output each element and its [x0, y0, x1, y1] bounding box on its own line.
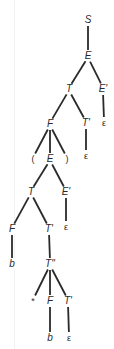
tree-node-n3: E' [98, 84, 109, 94]
tree-edge [14, 197, 28, 223]
tree-edge [68, 307, 69, 332]
parse-tree-diagram: SETE'FT'ε(E)εTE'FT'εbT''*FT'bε [0, 0, 114, 349]
tree-node-n13: F [8, 224, 16, 234]
tree-node-n12: E' [61, 187, 72, 197]
tree-node-n17: T'' [44, 259, 56, 269]
tree-edge [35, 270, 48, 296]
tree-edge [52, 270, 66, 296]
tree-node-n15: ε [63, 222, 69, 232]
tree-node-n5: T' [81, 118, 91, 128]
tree-edge [52, 165, 64, 187]
tree-node-n18: * [30, 296, 36, 306]
tree-edge [33, 198, 47, 224]
tree-node-n6: ε [101, 118, 107, 128]
tree-edge [90, 62, 101, 84]
tree-edges [0, 0, 114, 349]
tree-node-n21: b [46, 333, 54, 343]
tree-edge [52, 94, 66, 118]
tree-edge [52, 130, 65, 154]
tree-node-n19: F [46, 296, 54, 306]
tree-node-n7: ( [31, 154, 36, 164]
tree-edge [35, 130, 48, 154]
tree-node-n20: T' [63, 296, 73, 306]
tree-edge [103, 95, 104, 117]
tree-edge [34, 164, 48, 186]
tree-node-n16: b [8, 259, 16, 269]
tree-node-n1: E [84, 51, 93, 61]
tree-node-n4: F [46, 119, 54, 129]
tree-edge [72, 61, 86, 83]
tree-edge [49, 235, 50, 258]
tree-node-n11: T [27, 187, 35, 197]
tree-node-n9: ) [65, 154, 70, 164]
tree-node-n22: ε [66, 333, 72, 343]
tree-node-n2: T [65, 84, 73, 94]
tree-node-n10: ε [83, 151, 89, 161]
tree-edge [71, 95, 84, 118]
tree-node-n8: E [46, 154, 55, 164]
tree-node-n14: T' [44, 224, 54, 234]
tree-node-n0: S [84, 15, 93, 25]
